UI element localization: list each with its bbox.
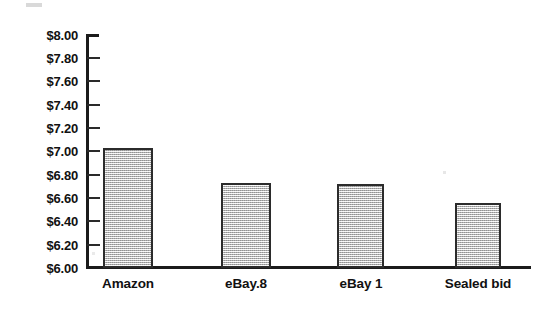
y-axis-tick <box>87 104 100 106</box>
y-axis-tick-label: $6.20 <box>0 239 78 252</box>
y-axis-tick <box>87 150 100 152</box>
y-axis-tick-label: $6.00 <box>0 262 78 275</box>
y-axis-tick <box>87 244 100 246</box>
scan-artifact <box>26 3 42 7</box>
y-axis-tick-label: $7.80 <box>0 52 78 65</box>
scan-artifact <box>443 171 446 174</box>
y-axis-tick <box>87 220 100 222</box>
x-axis-label-ebay-1: eBay 1 <box>311 276 411 291</box>
y-axis-tick-label: $7.60 <box>0 75 78 88</box>
x-axis-label-sealed-bid: Sealed bid <box>425 276 531 291</box>
y-axis-top-cap <box>86 34 99 37</box>
y-axis-tick <box>87 197 100 199</box>
bar-chart: $8.00 $7.80 $7.60 $7.40 $7.20 $7.00 $6.8… <box>0 0 550 316</box>
bar-ebay-1 <box>337 184 384 268</box>
x-axis-label-amazon: Amazon <box>78 276 178 291</box>
y-axis-tick-label: $6.80 <box>0 169 78 182</box>
y-axis-tick <box>87 174 100 176</box>
y-axis-tick-label: $7.40 <box>0 99 78 112</box>
y-axis-tick-label: $7.00 <box>0 145 78 158</box>
y-axis-tick <box>87 80 100 82</box>
scan-artifact <box>92 252 95 255</box>
y-axis-tick <box>87 57 100 59</box>
y-axis-tick-label: $6.60 <box>0 192 78 205</box>
x-axis-label-ebay-8: eBay.8 <box>196 276 296 291</box>
y-axis-tick <box>87 127 100 129</box>
bar-sealed-bid <box>455 203 501 268</box>
y-axis-tick-label: $6.40 <box>0 215 78 228</box>
y-axis-tick-label: $8.00 <box>0 29 78 42</box>
bar-ebay-8 <box>221 183 271 268</box>
y-axis-tick-label: $7.20 <box>0 122 78 135</box>
bar-amazon <box>103 148 153 268</box>
